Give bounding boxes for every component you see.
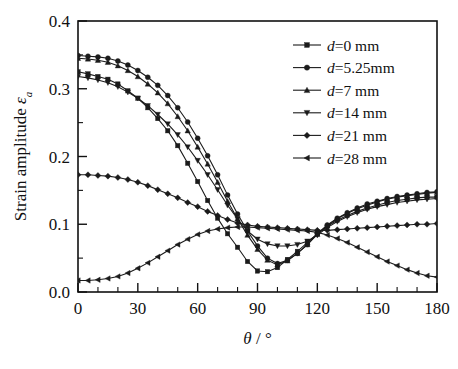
marker-circle bbox=[205, 153, 210, 158]
marker-circle bbox=[195, 136, 200, 141]
x-axis-title: θ / ° bbox=[243, 329, 271, 348]
marker-circle bbox=[145, 75, 150, 80]
marker-circle bbox=[185, 119, 190, 124]
legend-label: d=28 mm bbox=[327, 150, 387, 167]
legend-label: d=7 mm bbox=[327, 82, 379, 99]
marker-square bbox=[76, 70, 80, 74]
x-tick-label: 60 bbox=[189, 299, 206, 318]
marker-circle bbox=[175, 105, 180, 110]
y-tick-label: 0.0 bbox=[49, 283, 70, 302]
marker-circle bbox=[165, 93, 170, 98]
marker-square bbox=[245, 259, 249, 263]
x-tick-label: 0 bbox=[74, 299, 83, 318]
marker-circle bbox=[215, 172, 220, 177]
marker-square bbox=[166, 129, 170, 133]
x-tick-label: 120 bbox=[305, 299, 331, 318]
y-axis-title: Strain amplitude εa bbox=[11, 91, 34, 221]
legend-label: d=14 mm bbox=[327, 104, 387, 121]
marker-square bbox=[225, 232, 229, 236]
marker-circle bbox=[304, 65, 309, 70]
y-tick-label: 0.2 bbox=[49, 148, 70, 167]
marker-square bbox=[305, 43, 310, 48]
y-axis-title-text: Strain amplitude εa bbox=[11, 91, 34, 221]
marker-circle bbox=[125, 63, 130, 68]
y-tick-label: 0.1 bbox=[49, 215, 70, 234]
strain-amplitude-line-chart: 03060901201501800.00.10.20.30.4θ / °Stra… bbox=[0, 0, 458, 369]
marker-circle bbox=[155, 83, 160, 88]
marker-square bbox=[205, 198, 209, 202]
x-tick-label: 30 bbox=[129, 299, 146, 318]
legend-label: d=0 mm bbox=[327, 37, 379, 54]
marker-square bbox=[176, 143, 180, 147]
x-tick-label: 150 bbox=[364, 299, 390, 318]
x-tick-label: 180 bbox=[424, 299, 450, 318]
marker-square bbox=[195, 179, 199, 183]
marker-square bbox=[235, 245, 239, 249]
legend-label: d=5.25mm bbox=[327, 59, 395, 76]
marker-square bbox=[255, 269, 259, 273]
y-tick-label: 0.4 bbox=[49, 12, 71, 31]
x-tick-label: 90 bbox=[249, 299, 266, 318]
y-tick-label: 0.3 bbox=[49, 80, 70, 99]
legend-label: d=21 mm bbox=[327, 127, 387, 144]
marker-circle bbox=[135, 68, 140, 73]
marker-square bbox=[185, 161, 189, 165]
marker-square bbox=[86, 72, 90, 76]
chart-figure: 03060901201501800.00.10.20.30.4θ / °Stra… bbox=[0, 0, 458, 369]
marker-square bbox=[265, 269, 269, 273]
